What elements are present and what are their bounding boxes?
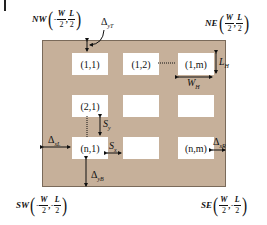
- corner-name: SW: [16, 200, 29, 210]
- spacing-x-label: Sx: [109, 140, 117, 153]
- delta-right-label: ΔxR: [213, 136, 226, 149]
- subscript: H: [195, 84, 199, 90]
- denominator: 2: [55, 206, 59, 215]
- numerator: L: [234, 196, 241, 206]
- right-paren: ): [242, 194, 247, 216]
- denominator: 2: [42, 206, 46, 215]
- right-paren: ): [62, 194, 67, 216]
- denominator: 2: [235, 206, 239, 215]
- subscript: yB: [97, 176, 103, 182]
- left-paren: (: [30, 194, 35, 216]
- y-fraction: L 2: [234, 196, 241, 215]
- subscript: yT: [107, 23, 113, 29]
- subscript: x: [114, 147, 117, 153]
- subscript: H: [225, 63, 229, 69]
- corner-name: SE: [201, 200, 212, 210]
- spacing-y-label: Sy: [103, 118, 111, 131]
- dimension-arrows: [0, 0, 267, 225]
- subscript: xL: [54, 141, 60, 147]
- delta-left-label: ΔxL: [48, 134, 60, 147]
- subscript: xR: [219, 143, 225, 149]
- subscript: y: [108, 125, 111, 131]
- cell-width-label: WH: [187, 77, 200, 90]
- corner-label-se: SE ( W 2 , - L 2 ): [201, 194, 248, 216]
- delta-top-label: ΔyT: [101, 16, 113, 29]
- left-paren: (: [213, 194, 218, 216]
- numerator: L: [54, 196, 61, 206]
- delta-bottom-label: ΔyB: [91, 169, 104, 182]
- denominator: 2: [222, 206, 226, 215]
- cell-height-label: LH: [219, 56, 229, 69]
- y-fraction: L 2: [54, 196, 61, 215]
- corner-label-sw: SW ( - W 2 , - L 2 ): [16, 194, 68, 216]
